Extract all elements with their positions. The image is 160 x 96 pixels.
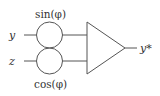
cos-label: cos(φ) xyxy=(34,78,67,90)
summation-triangle xyxy=(87,22,125,74)
sin-label: sin(φ) xyxy=(35,8,66,20)
output-label: y* xyxy=(139,42,152,55)
cos-multiplier-node xyxy=(37,48,63,74)
input-label-z: z xyxy=(8,55,15,68)
sin-multiplier-node xyxy=(37,22,63,48)
input-label-y: y xyxy=(8,29,16,42)
diagram-canvas: sin(φ) cos(φ) y z y* xyxy=(0,0,160,96)
